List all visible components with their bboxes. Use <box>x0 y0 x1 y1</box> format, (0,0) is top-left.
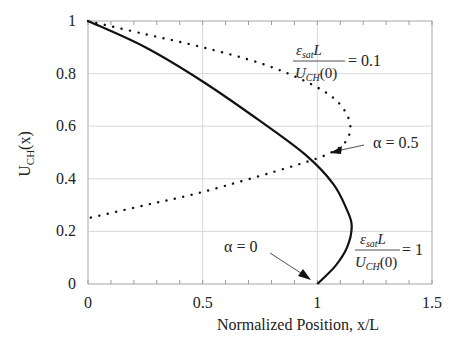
svg-text:= 0.1: = 0.1 <box>348 52 381 69</box>
series-solid-line <box>88 21 352 284</box>
svg-text:= 1: = 1 <box>402 241 423 258</box>
annotation-alpha-0: α = 0 <box>224 238 257 255</box>
svg-text:εsatL: εsatL <box>360 231 386 249</box>
svg-text:0.2: 0.2 <box>56 222 76 239</box>
y-axis-label: UCH(x) <box>16 131 36 177</box>
svg-text:1: 1 <box>68 12 76 29</box>
svg-text:0: 0 <box>84 294 92 311</box>
arrowhead-alpha-0 <box>298 269 311 280</box>
svg-text:0.6: 0.6 <box>56 117 76 134</box>
annotation-eq-1: εsatL UCH(0) = 1 <box>355 231 423 272</box>
svg-text:0.5: 0.5 <box>193 294 213 311</box>
svg-text:0.8: 0.8 <box>56 65 76 82</box>
svg-text:UCH(x): UCH(x) <box>16 131 36 177</box>
svg-text:εsatL: εsatL <box>296 42 322 60</box>
annotation-alpha-0.5: α = 0.5 <box>373 134 418 151</box>
x-tick-labels: 00.511.5 <box>84 294 442 311</box>
svg-text:0.4: 0.4 <box>56 170 76 187</box>
svg-text:1.5: 1.5 <box>422 294 442 311</box>
svg-text:0: 0 <box>68 275 76 292</box>
x-axis-label: Normalized Position, x/L <box>217 316 379 333</box>
annotation-eq-0.1: εsatL UCH(0) = 0.1 <box>293 42 381 83</box>
svg-text:1: 1 <box>313 294 321 311</box>
arrowhead-alpha-0.5 <box>330 146 342 154</box>
svg-text:UCH(0): UCH(0) <box>295 65 337 83</box>
y-tick-labels: 00.20.40.60.81 <box>56 12 76 292</box>
svg-text:UCH(0): UCH(0) <box>355 254 397 272</box>
chart: 00.511.5 00.20.40.60.81 Normalized Posit… <box>0 0 454 344</box>
